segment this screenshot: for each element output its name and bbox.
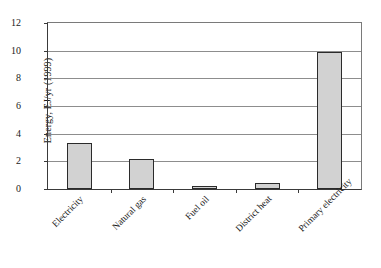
x-tick-mark — [236, 189, 237, 193]
y-tick-label: 0 — [0, 184, 21, 194]
gridline — [48, 161, 361, 162]
x-axis-label: Fuel oil — [171, 194, 211, 234]
x-axis-label: Natural gas — [108, 194, 148, 234]
bar-chart: Energy, EJ/yr (1999) 024681012 Electrici… — [0, 0, 381, 268]
y-tick-mark — [44, 51, 48, 52]
gridline — [48, 106, 361, 107]
x-tick-mark — [111, 189, 112, 193]
bar — [192, 186, 217, 189]
x-tick-mark — [173, 189, 174, 193]
y-tick-mark — [44, 23, 48, 24]
y-tick-label: 4 — [0, 129, 21, 139]
x-tick-mark — [298, 189, 299, 193]
plot-area: 024681012 — [47, 22, 362, 190]
y-tick-mark — [44, 106, 48, 107]
y-tick-mark — [44, 161, 48, 162]
y-tick-label: 2 — [0, 156, 21, 166]
y-tick-mark — [44, 134, 48, 135]
gridline — [48, 134, 361, 135]
bar — [317, 52, 342, 189]
x-axis-label: Primary electricity — [296, 194, 336, 234]
y-tick-mark — [44, 189, 48, 190]
gridline — [48, 51, 361, 52]
bar — [129, 159, 154, 189]
y-tick-label: 8 — [0, 73, 21, 83]
gridline — [48, 78, 361, 79]
y-tick-label: 6 — [0, 101, 21, 111]
x-axis-label: Electricity — [46, 194, 86, 234]
bar — [67, 143, 92, 189]
y-tick-label: 10 — [0, 46, 21, 56]
bar — [255, 183, 280, 189]
x-axis-label: District heat — [234, 194, 274, 234]
y-tick-label: 12 — [0, 18, 21, 28]
y-tick-mark — [44, 78, 48, 79]
